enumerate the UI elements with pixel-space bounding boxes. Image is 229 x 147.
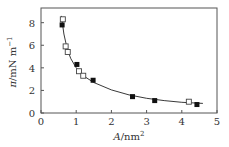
filled-square-marker <box>194 102 199 107</box>
y-tick-label: 2 <box>29 85 35 96</box>
x-tick-label: 4 <box>179 116 185 127</box>
y-axis-ticks: 02468 <box>29 18 44 119</box>
x-tick-label: 2 <box>108 116 114 127</box>
y-tick-label: 8 <box>29 18 35 29</box>
open-square-marker <box>63 44 68 49</box>
data-markers <box>60 17 200 107</box>
x-tick-label: 0 <box>38 116 44 127</box>
filled-square-marker <box>74 62 79 67</box>
open-square-marker <box>81 73 86 78</box>
plot-frame <box>41 8 217 113</box>
filled-square-marker <box>130 94 135 99</box>
open-square-marker <box>65 50 70 55</box>
chart: 012345 02468 A/nm2 π/mN m−1 <box>0 0 229 147</box>
x-tick-label: 5 <box>214 116 220 127</box>
x-tick-label: 3 <box>143 116 149 127</box>
fit-curve <box>61 16 203 104</box>
y-tick-label: 0 <box>29 108 35 119</box>
filled-square-marker <box>91 78 96 83</box>
filled-square-marker <box>152 98 157 103</box>
open-square-marker <box>60 17 65 22</box>
y-tick-label: 6 <box>29 40 35 51</box>
y-axis-title: π/mN m−1 <box>6 36 18 88</box>
y-tick-label: 4 <box>29 63 35 74</box>
filled-square-marker <box>60 22 65 27</box>
x-axis-title: A/nm2 <box>113 130 145 142</box>
x-tick-label: 1 <box>73 116 79 127</box>
open-square-marker <box>186 99 191 104</box>
